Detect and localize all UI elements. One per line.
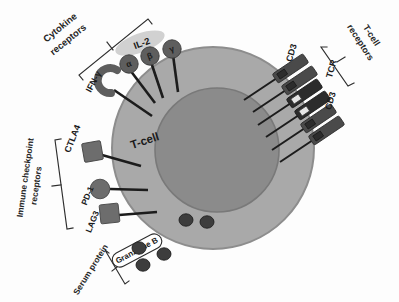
ifn-gamma-crescent-head xyxy=(98,68,117,93)
ctla4-head xyxy=(81,140,103,162)
cytokine-receptors-group-label: Cytokine receptors xyxy=(41,10,88,57)
internal-granule xyxy=(179,214,193,226)
external-granule xyxy=(157,248,171,260)
external-granule xyxy=(136,259,150,271)
external-granule xyxy=(132,242,146,254)
internal-granule xyxy=(200,216,214,228)
t-cell-diagram-svg: T-cell IL-2 IFN-γ α β γ xyxy=(0,0,399,302)
lag3-head xyxy=(99,203,120,224)
pd1-stalk xyxy=(110,189,148,190)
serum-protein-group-label: Serum protein xyxy=(71,242,110,296)
figure-canvas: T-cell IL-2 IFN-γ α β γ xyxy=(0,0,399,302)
ctla4-label: CTLA4 xyxy=(62,123,82,154)
lag3-label: LAG3 xyxy=(83,209,101,234)
checkpoint-receptors-group-label: Immune checkpoint receptors xyxy=(15,137,44,218)
tcell-receptors-group-label: T-cell receptors xyxy=(345,22,382,62)
